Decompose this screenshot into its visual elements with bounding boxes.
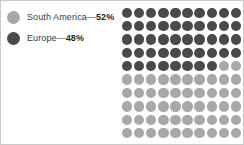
dot-europe: [207, 61, 217, 71]
dot-europe: [146, 21, 156, 31]
dot-south-america: [194, 74, 204, 84]
dot-europe: [134, 34, 144, 44]
dot-europe: [134, 48, 144, 58]
dot-south-america: [170, 88, 180, 98]
dot-europe: [122, 21, 132, 31]
dot-south-america: [194, 115, 204, 125]
dot-europe: [194, 48, 204, 58]
dot-europe: [194, 61, 204, 71]
dot-south-america: [231, 88, 241, 98]
dot-south-america: [207, 101, 217, 111]
dot-south-america: [219, 88, 229, 98]
dot-europe: [207, 48, 217, 58]
dot-south-america: [182, 115, 192, 125]
legend-percent-value: 52%: [96, 12, 114, 22]
dot-europe: [122, 61, 132, 71]
dot-south-america: [231, 115, 241, 125]
dot-south-america: [158, 88, 168, 98]
dot-europe: [231, 8, 241, 18]
dot-europe: [146, 34, 156, 44]
dot-south-america: [219, 101, 229, 111]
dot-south-america: [158, 115, 168, 125]
dot-south-america: [207, 88, 217, 98]
dot-south-america: [134, 115, 144, 125]
dot-europe: [219, 34, 229, 44]
dot-south-america: [170, 115, 180, 125]
dot-south-america: [170, 74, 180, 84]
dot-south-america: [219, 61, 229, 71]
dot-south-america: [170, 128, 180, 138]
dot-south-america: [146, 128, 156, 138]
dot-south-america: [194, 101, 204, 111]
dot-europe: [158, 8, 168, 18]
dot-europe: [146, 8, 156, 18]
dot-matrix-infographic: South America—52% Europe—48%: [0, 0, 244, 145]
dot-south-america: [158, 128, 168, 138]
legend-percent-value: 48%: [66, 33, 84, 43]
dot-europe: [122, 8, 132, 18]
dot-europe: [134, 8, 144, 18]
dot-europe: [207, 34, 217, 44]
dot-europe: [194, 21, 204, 31]
dot-south-america: [122, 101, 132, 111]
dot-europe: [219, 48, 229, 58]
dot-south-america: [134, 128, 144, 138]
dot-south-america: [146, 88, 156, 98]
dot-europe: [194, 34, 204, 44]
dot-europe: [207, 21, 217, 31]
dot-europe: [158, 48, 168, 58]
dot-south-america: [170, 101, 180, 111]
dot-europe: [170, 8, 180, 18]
legend-item-europe[interactable]: Europe—48%: [7, 31, 114, 45]
dot-matrix-grid: [121, 6, 242, 140]
dot-europe: [158, 21, 168, 31]
dot-south-america: [182, 74, 192, 84]
dot-europe: [231, 21, 241, 31]
dot-south-america: [207, 74, 217, 84]
dot-south-america: [146, 74, 156, 84]
legend-item-south-america[interactable]: South America—52%: [7, 10, 114, 24]
dot-south-america: [231, 74, 241, 84]
dot-south-america: [182, 128, 192, 138]
legend: South America—52% Europe—48%: [7, 10, 114, 45]
dot-europe: [231, 48, 241, 58]
dot-europe: [182, 34, 192, 44]
dot-europe: [194, 8, 204, 18]
dot-south-america: [219, 128, 229, 138]
dot-europe: [219, 8, 229, 18]
dot-south-america: [122, 128, 132, 138]
dot-europe: [170, 61, 180, 71]
dot-south-america: [182, 101, 192, 111]
dot-south-america: [219, 115, 229, 125]
legend-label-south-america: South America—52%: [27, 12, 114, 22]
dot-europe: [122, 48, 132, 58]
dot-south-america: [231, 61, 241, 71]
dot-south-america: [158, 101, 168, 111]
dot-south-america: [219, 74, 229, 84]
dot-south-america: [146, 101, 156, 111]
dot-south-america: [134, 88, 144, 98]
dot-europe: [134, 61, 144, 71]
dot-europe: [182, 61, 192, 71]
dot-south-america: [122, 115, 132, 125]
dot-south-america: [231, 128, 241, 138]
dot-south-america: [207, 128, 217, 138]
dot-south-america: [146, 115, 156, 125]
dot-south-america: [122, 88, 132, 98]
dot-europe: [134, 21, 144, 31]
dot-south-america: [122, 74, 132, 84]
dot-south-america: [158, 74, 168, 84]
dot-europe: [182, 48, 192, 58]
legend-label-europe: Europe—48%: [27, 33, 84, 43]
dot-south-america: [194, 88, 204, 98]
dot-europe: [158, 34, 168, 44]
dot-south-america: [207, 115, 217, 125]
dot-south-america: [182, 88, 192, 98]
dot-europe: [146, 48, 156, 58]
dot-europe: [231, 34, 241, 44]
legend-swatch-south-america-icon: [7, 11, 20, 24]
dot-europe: [170, 21, 180, 31]
legend-swatch-europe-icon: [7, 32, 20, 45]
dot-europe: [170, 34, 180, 44]
dot-south-america: [134, 101, 144, 111]
